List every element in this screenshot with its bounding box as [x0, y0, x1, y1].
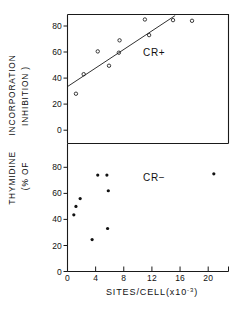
upper-y-label-0: 0 — [57, 125, 62, 135]
data-point — [143, 18, 146, 21]
upper-panel-y-ticks — [64, 26, 68, 130]
x-axis-tick-labels: 048121620 — [65, 273, 213, 283]
x-axis-ticks — [68, 267, 209, 272]
data-point — [107, 189, 110, 192]
lower-panel-y-tick-labels: 0 20 40 60 80 — [52, 162, 62, 276]
x-tick-label-0: 0 — [65, 273, 70, 283]
x-tick-label-16: 16 — [175, 273, 185, 283]
upper-y-label-20: 20 — [52, 99, 62, 109]
data-point — [118, 39, 121, 42]
y-axis-title-line-thymidine: THYMIDINE — [7, 151, 17, 205]
x-axis-title-close: ) — [194, 287, 198, 297]
y-axis-title-line-incorporation: INCORPORATION — [7, 54, 17, 135]
x-axis-title: SITES/CELL(x10-3) — [106, 287, 198, 297]
x-tick-label-4: 4 — [93, 273, 98, 283]
upper-panel-series-label: CR+ — [143, 47, 165, 58]
upper-panel-cr-plus: 0 20 40 60 80 CR+ — [52, 15, 228, 144]
data-point — [190, 19, 193, 22]
upper-y-label-40: 40 — [52, 73, 62, 83]
y-axis-title-line-percent-of: (% OF — [20, 162, 30, 190]
y-axis-title-line-inhibition: INHIBITION ) — [20, 66, 30, 126]
upper-y-label-60: 60 — [52, 47, 62, 57]
x-tick-label-20: 20 — [203, 273, 213, 283]
x-axis-title-main: SITES/CELL(x10 — [106, 287, 187, 297]
data-point — [96, 50, 99, 53]
upper-y-label-80: 80 — [52, 21, 62, 31]
data-point — [96, 174, 99, 177]
lower-y-label-40: 40 — [52, 214, 62, 224]
x-tick-label-12: 12 — [147, 273, 157, 283]
data-point — [74, 92, 77, 95]
data-point — [107, 64, 110, 67]
lower-y-label-20: 20 — [52, 241, 62, 251]
lower-panel-cr-minus: 0 20 40 60 80 048121620 CR− — [52, 144, 228, 284]
data-point — [147, 33, 150, 36]
lower-panel-series-label: CR− — [143, 172, 165, 183]
y-axis-title: THYMIDINE INCORPORATION (% OF INHIBITION… — [7, 54, 30, 204]
data-point — [74, 205, 77, 208]
x-axis-title-exponent: -3 — [187, 287, 194, 293]
figure-container: THYMIDINE INCORPORATION (% OF INHIBITION… — [0, 0, 241, 313]
scatter-chart-svg: THYMIDINE INCORPORATION (% OF INHIBITION… — [0, 0, 241, 313]
data-point — [171, 18, 174, 21]
lower-y-label-60: 60 — [52, 188, 62, 198]
lower-y-label-80: 80 — [52, 162, 62, 172]
upper-panel-data-points — [74, 18, 193, 96]
lower-panel-y-ticks — [64, 167, 68, 271]
data-point — [79, 197, 82, 200]
data-point — [212, 172, 215, 175]
upper-panel-y-tick-labels: 0 20 40 60 80 — [52, 21, 62, 135]
x-tick-label-8: 8 — [121, 273, 126, 283]
lower-y-label-0: 0 — [57, 267, 62, 277]
data-point — [91, 238, 94, 241]
data-point — [106, 227, 109, 230]
data-point — [72, 213, 75, 216]
data-point — [105, 174, 108, 177]
